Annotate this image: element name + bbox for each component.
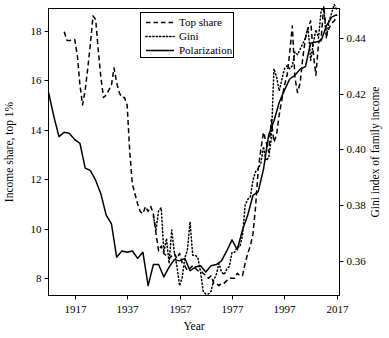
line-chart-svg: 191719371957197719972017 81012141618 0.3…: [0, 0, 389, 338]
x-tick-label: 1977: [222, 303, 245, 315]
y-left-tick-label: 10: [31, 223, 43, 235]
x-axis-ticks: 191719371957197719972017: [65, 296, 350, 315]
y-right-tick-label: 0.40: [347, 143, 367, 155]
legend-label-polarization: Polarization: [179, 44, 233, 56]
x-axis-title: Year: [183, 320, 204, 332]
y-left-tick-label: 14: [31, 124, 43, 136]
x-tick-label: 1917: [65, 303, 88, 315]
y-axis-left-ticks: 81012141618: [31, 25, 49, 284]
legend-label-gini: Gini: [179, 30, 199, 42]
y-axis-right-ticks: 0.360.380.400.420.44: [340, 32, 367, 267]
y-right-tick-label: 0.44: [347, 32, 367, 44]
y-left-tick-label: 16: [31, 74, 43, 86]
x-tick-label: 1957: [170, 303, 193, 315]
chart-legend: Top share Gini Polarization: [141, 13, 234, 58]
y-left-tick-label: 8: [36, 272, 42, 284]
x-tick-label: 2017: [327, 303, 350, 315]
y-right-tick-label: 0.38: [347, 199, 367, 211]
y-axis-right-title: Gini index of family income: [369, 87, 382, 218]
legend-label-top-share: Top share: [179, 16, 222, 28]
chart-figure: 191719371957197719972017 81012141618 0.3…: [0, 0, 389, 338]
y-right-tick-label: 0.42: [347, 88, 366, 100]
y-right-tick-label: 0.36: [347, 255, 367, 267]
x-tick-label: 1997: [274, 303, 297, 315]
x-tick-label: 1937: [117, 303, 140, 315]
y-left-tick-label: 12: [31, 173, 42, 185]
y-left-tick-label: 18: [31, 25, 43, 37]
y-axis-left-title: Income share, top 1%: [3, 101, 16, 202]
